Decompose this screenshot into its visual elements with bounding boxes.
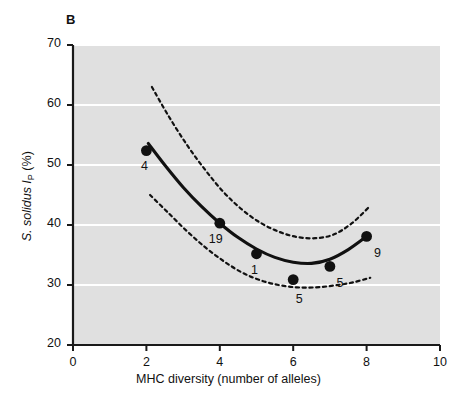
x-tick-label-10: 10 (425, 355, 455, 369)
data-point-3[interactable] (251, 248, 262, 259)
y-tick-label-40: 40 (31, 216, 61, 230)
point-sample-size-label-5: 5 (330, 276, 350, 290)
y-tick-label-50: 50 (31, 156, 61, 170)
plot-canvas (0, 0, 457, 406)
y-tick-label-70: 70 (31, 36, 61, 50)
point-sample-size-label-1: 4 (134, 159, 154, 173)
y-tick-label-30: 30 (31, 276, 61, 290)
x-tick-label-0: 0 (58, 355, 88, 369)
data-point-2[interactable] (214, 218, 225, 229)
x-tick-label-8: 8 (352, 355, 382, 369)
data-point-1[interactable] (141, 145, 152, 156)
x-tick-label-4: 4 (205, 355, 235, 369)
point-sample-size-label-3: 1 (245, 263, 265, 277)
y-tick-label-20: 20 (31, 336, 61, 350)
plot-background (73, 45, 440, 345)
data-point-4[interactable] (288, 274, 299, 285)
point-sample-size-label-6: 9 (368, 246, 388, 260)
x-tick-label-2: 2 (131, 355, 161, 369)
data-point-6[interactable] (361, 231, 372, 242)
y-tick-label-60: 60 (31, 96, 61, 110)
point-sample-size-label-4: 5 (289, 292, 309, 306)
x-tick-label-6: 6 (278, 355, 308, 369)
point-sample-size-label-2: 19 (206, 232, 226, 246)
data-point-5[interactable] (325, 261, 336, 272)
figure-panel-b: B S. solidus IP (%) MHC diversity (numbe… (0, 0, 457, 406)
